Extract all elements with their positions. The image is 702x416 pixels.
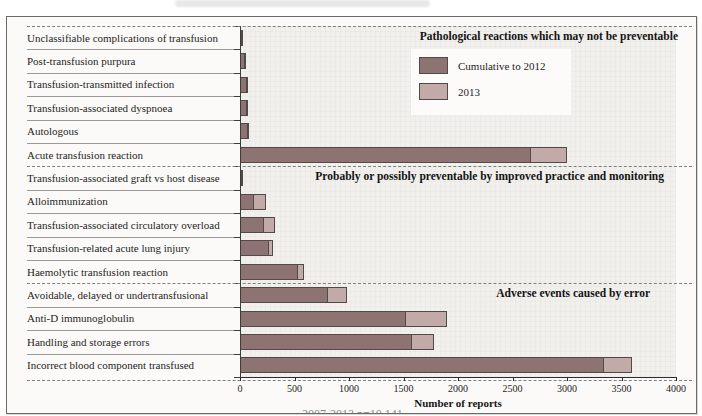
bar-10 bbox=[240, 264, 304, 280]
row-separator bbox=[27, 96, 235, 97]
bar-segment-cumulative bbox=[240, 240, 269, 256]
clipped-caption: 2007-2013 n=10,141 bbox=[7, 404, 698, 413]
x-axis-tick bbox=[676, 377, 677, 381]
row-separator bbox=[27, 213, 235, 214]
category-label: Post-transfusion purpura bbox=[27, 49, 235, 72]
category-label: Anti-D immunoglobulin bbox=[27, 307, 235, 330]
bar-segment-2013 bbox=[248, 123, 249, 139]
category-label: Transfusion-related acute lung injury bbox=[27, 237, 235, 260]
x-tick-label: 3000 bbox=[542, 383, 592, 394]
legend-swatch-icon bbox=[419, 57, 448, 74]
x-axis-tick bbox=[567, 377, 568, 381]
x-tick-label: 2500 bbox=[488, 383, 538, 394]
x-tick-label: 1500 bbox=[379, 383, 429, 394]
x-axis-tick bbox=[295, 377, 296, 381]
chart-figure: Unclassifiable complications of transfus… bbox=[6, 16, 697, 414]
bar-segment-2013 bbox=[298, 264, 304, 280]
category-label: Autologous bbox=[27, 120, 235, 143]
bar-2 bbox=[240, 77, 248, 93]
x-tick-label: 500 bbox=[270, 383, 320, 394]
x-axis-tick bbox=[349, 377, 350, 381]
row-separator bbox=[27, 307, 235, 308]
x-tick-label: 1000 bbox=[324, 383, 374, 394]
x-tick-label: 4000 bbox=[651, 383, 701, 394]
bar-segment-cumulative bbox=[240, 217, 264, 233]
bar-segment-cumulative bbox=[240, 194, 254, 210]
legend-entry: 2013 bbox=[419, 83, 571, 100]
y-axis-line bbox=[240, 26, 241, 377]
bar-segment-2013 bbox=[412, 334, 434, 350]
x-axis-tick bbox=[458, 377, 459, 381]
bar-segment-cumulative bbox=[240, 357, 604, 373]
x-tick-label: 2000 bbox=[433, 383, 483, 394]
bar-5 bbox=[240, 147, 567, 163]
x-tick-label: 3500 bbox=[597, 383, 647, 394]
category-label: Transfusion-associated circulatory overl… bbox=[27, 213, 235, 236]
row-separator bbox=[27, 49, 235, 50]
category-label: Alloimmunization bbox=[27, 190, 235, 213]
section-header: Adverse events caused by error bbox=[496, 287, 650, 299]
row-separator bbox=[27, 330, 235, 331]
legend-entry: Cumulative to 2012 bbox=[419, 57, 571, 74]
bar-segment-2013 bbox=[604, 357, 632, 373]
row-separator bbox=[27, 260, 235, 261]
bar-segment-cumulative bbox=[240, 334, 412, 350]
bar-segment-2013 bbox=[247, 77, 248, 93]
caption-text: 2007-2013 n=10,141 bbox=[302, 407, 403, 413]
category-label: Haemolytic transfusion reaction bbox=[27, 260, 235, 283]
section-dashed-line bbox=[27, 26, 692, 27]
bar-segment-2013 bbox=[531, 147, 567, 163]
x-axis-tick bbox=[404, 377, 405, 381]
bar-7 bbox=[240, 194, 266, 210]
bar-segment-2013 bbox=[247, 100, 249, 116]
section-dashed-line bbox=[27, 380, 692, 381]
row-separator bbox=[27, 354, 235, 355]
bar-11 bbox=[240, 287, 347, 303]
category-label: Transfusion-associated graft vs host dis… bbox=[27, 166, 235, 189]
x-axis-tick bbox=[240, 377, 241, 381]
bar-segment-cumulative bbox=[240, 264, 298, 280]
section-dashed-line bbox=[27, 283, 692, 284]
x-axis-tick bbox=[622, 377, 623, 381]
bar-segment-2013 bbox=[245, 53, 246, 69]
bar-4 bbox=[240, 123, 249, 139]
category-label: Avoidable, delayed or undertransfusional bbox=[27, 283, 235, 306]
bar-13 bbox=[240, 334, 434, 350]
category-label: Unclassifiable complications of transfus… bbox=[27, 26, 235, 49]
bar-12 bbox=[240, 311, 447, 327]
bar-segment-2013 bbox=[328, 287, 347, 303]
legend-swatch-icon bbox=[419, 83, 448, 100]
bar-segment-2013 bbox=[264, 217, 275, 233]
section-header: Pathological reactions which may not be … bbox=[420, 30, 678, 42]
scan-artifact bbox=[175, 0, 430, 7]
bar-segment-2013 bbox=[406, 311, 447, 327]
row-separator bbox=[27, 120, 235, 121]
section-header: Probably or possibly preventable by impr… bbox=[315, 170, 664, 182]
category-label: Incorrect blood component transfused bbox=[27, 354, 235, 377]
legend-label: Cumulative to 2012 bbox=[458, 60, 545, 72]
x-tick-label: 0 bbox=[215, 383, 265, 394]
bar-segment-cumulative bbox=[240, 287, 328, 303]
row-separator bbox=[27, 237, 235, 238]
category-label: Acute transfusion reaction bbox=[27, 143, 235, 166]
row-separator bbox=[27, 190, 235, 191]
bar-14 bbox=[240, 357, 632, 373]
row-separator bbox=[27, 143, 235, 144]
bar-segment-cumulative bbox=[240, 123, 248, 139]
bar-segment-2013 bbox=[254, 194, 266, 210]
bar-segment-2013 bbox=[242, 170, 243, 186]
bar-9 bbox=[240, 240, 273, 256]
category-label: Handling and storage errors bbox=[27, 330, 235, 353]
category-label: Transfusion-associated dyspnoea bbox=[27, 96, 235, 119]
category-label: Transfusion-transmitted infection bbox=[27, 73, 235, 96]
bar-segment-2013 bbox=[242, 30, 243, 46]
bar-8 bbox=[240, 217, 275, 233]
x-axis-tick bbox=[513, 377, 514, 381]
bar-segment-cumulative bbox=[240, 311, 406, 327]
section-dashed-line bbox=[27, 166, 692, 167]
bar-segment-cumulative bbox=[240, 147, 531, 163]
bar-3 bbox=[240, 100, 248, 116]
chart-legend: Cumulative to 20122013 bbox=[411, 49, 571, 115]
row-separator bbox=[27, 73, 235, 74]
bar-segment-2013 bbox=[269, 240, 273, 256]
